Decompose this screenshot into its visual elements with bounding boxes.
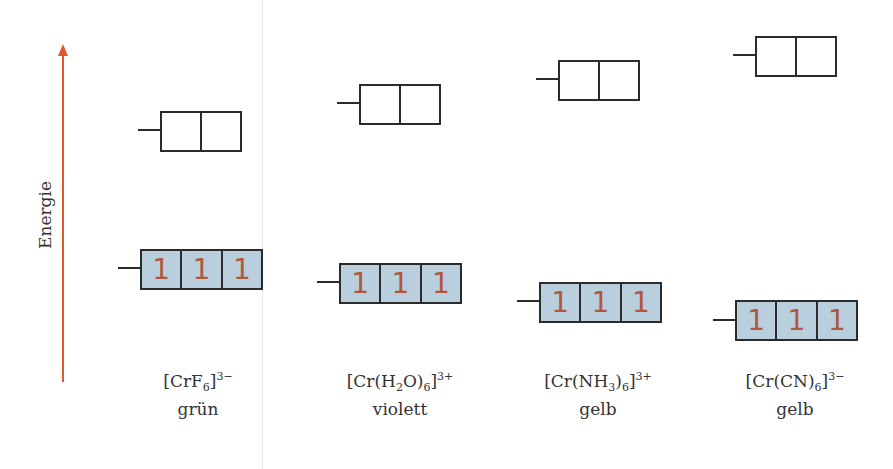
electron-up-icon: 1 <box>622 284 660 321</box>
eg-level-tick <box>536 78 558 80</box>
t2g-level-tick <box>317 281 339 283</box>
electron-up-icon: 1 <box>737 302 777 339</box>
orbital-cell <box>600 62 638 99</box>
orbital-cell <box>162 113 202 150</box>
complex-formula: [Cr(CN)6]3− <box>746 368 845 396</box>
eg-orbital-box <box>755 36 837 77</box>
axis-label: Energie <box>35 181 55 249</box>
complex-formula: [Cr(H2O)6]3+ <box>347 368 454 396</box>
orbital-cell <box>361 86 401 123</box>
complex-label: [CrF6]3− grün <box>163 368 232 423</box>
eg-level-tick <box>733 54 755 56</box>
electron-up-icon: 1 <box>581 284 621 321</box>
complex-label: [Cr(H2O)6]3+ violett <box>347 368 454 423</box>
complex-color-name: gelb <box>746 396 845 422</box>
t2g-orbital-box: 1 1 1 <box>539 282 662 323</box>
eg-level-tick <box>138 129 160 131</box>
t2g-orbital-box: 1 1 1 <box>735 300 858 341</box>
orbital-cell <box>797 38 835 75</box>
t2g-orbital-box: 1 1 1 <box>339 263 462 304</box>
complex-color-name: gelb <box>544 396 652 422</box>
complex-formula: [CrF6]3− <box>163 368 232 396</box>
arrow-up-icon <box>58 44 68 56</box>
t2g-level-tick <box>713 319 735 321</box>
page-divider <box>262 0 263 469</box>
electron-up-icon: 1 <box>777 302 817 339</box>
orbital-cell <box>202 113 240 150</box>
eg-level-tick <box>337 102 359 104</box>
orbital-cell <box>560 62 600 99</box>
orbital-cell <box>401 86 439 123</box>
electron-up-icon: 1 <box>223 251 261 288</box>
electron-up-icon: 1 <box>541 284 581 321</box>
electron-up-icon: 1 <box>818 302 856 339</box>
t2g-orbital-box: 1 1 1 <box>140 249 263 290</box>
electron-up-icon: 1 <box>381 265 421 302</box>
eg-orbital-box <box>558 60 640 101</box>
complex-label: [Cr(CN)6]3− gelb <box>746 368 845 423</box>
electron-up-icon: 1 <box>182 251 222 288</box>
eg-orbital-box <box>160 111 242 152</box>
t2g-level-tick <box>517 300 539 302</box>
electron-up-icon: 1 <box>422 265 460 302</box>
electron-up-icon: 1 <box>142 251 182 288</box>
complex-label: [Cr(NH3)6]3+ gelb <box>544 368 652 423</box>
orbital-cell <box>757 38 797 75</box>
t2g-level-tick <box>118 267 140 269</box>
complex-formula: [Cr(NH3)6]3+ <box>544 368 652 396</box>
energy-arrow-line <box>62 52 64 382</box>
eg-orbital-box <box>359 84 441 125</box>
electron-up-icon: 1 <box>341 265 381 302</box>
complex-color-name: grün <box>163 396 232 422</box>
complex-color-name: violett <box>347 396 454 422</box>
